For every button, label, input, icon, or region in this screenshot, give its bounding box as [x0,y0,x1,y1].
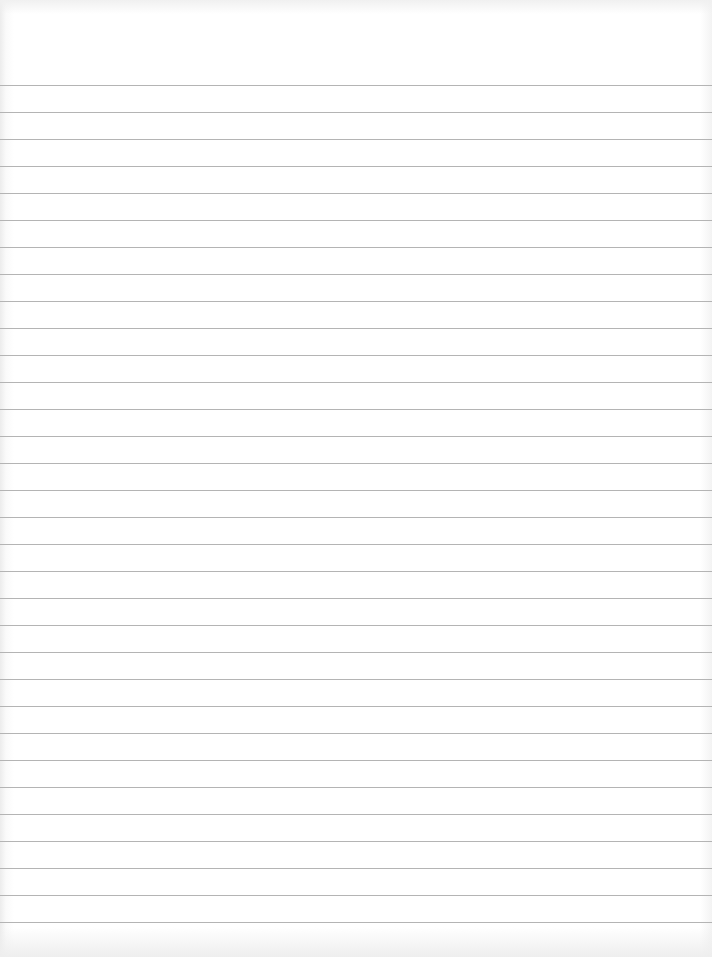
ruled-line [0,274,712,275]
ruled-line [0,544,712,545]
ruled-line [0,301,712,302]
ruled-line [0,895,712,896]
ruled-line [0,85,712,86]
ruled-line [0,166,712,167]
ruled-line [0,598,712,599]
ruled-line [0,112,712,113]
ruled-line [0,760,712,761]
ruled-line [0,247,712,248]
ruled-line [0,571,712,572]
ruled-line [0,868,712,869]
ruled-line [0,652,712,653]
ruled-line [0,733,712,734]
ruled-line [0,436,712,437]
ruled-line [0,220,712,221]
ruled-line [0,382,712,383]
ruled-line [0,328,712,329]
ruled-line [0,625,712,626]
ruled-line [0,139,712,140]
ruled-line [0,706,712,707]
ruled-line [0,922,712,923]
ruled-line [0,841,712,842]
ruled-line [0,814,712,815]
ruled-line [0,193,712,194]
ruled-line [0,490,712,491]
ruled-line [0,517,712,518]
ruled-line [0,355,712,356]
ruled-line [0,409,712,410]
lined-paper-page [0,0,712,957]
ruled-line [0,463,712,464]
scan-bottom-shadow [0,927,712,957]
ruled-line [0,787,712,788]
ruled-line [0,679,712,680]
scan-top-shadow [0,0,712,14]
